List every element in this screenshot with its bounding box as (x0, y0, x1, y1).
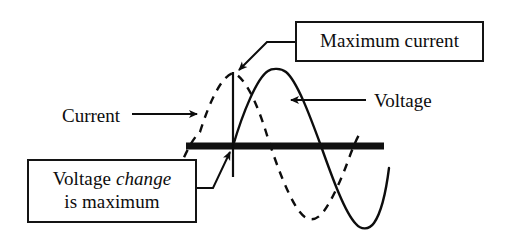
maximum-current-leader-line (239, 42, 295, 70)
callout-maximum-current-text: Maximum current (320, 30, 459, 52)
phase-relationship-figure: Maximum current Voltage change is maximu… (0, 0, 506, 239)
callout-voltage-change-prefix: Voltage (53, 168, 116, 189)
voltage-change-leader-line (197, 152, 230, 188)
callout-voltage-change-line1: Voltage change (53, 168, 172, 190)
callout-voltage-change-line2: is maximum (64, 191, 159, 213)
callout-maximum-current: Maximum current (295, 21, 484, 62)
label-voltage: Voltage (374, 90, 432, 112)
label-current: Current (62, 105, 120, 127)
callout-voltage-change-emphasis: change (116, 168, 171, 189)
callout-voltage-change: Voltage change is maximum (27, 159, 197, 223)
